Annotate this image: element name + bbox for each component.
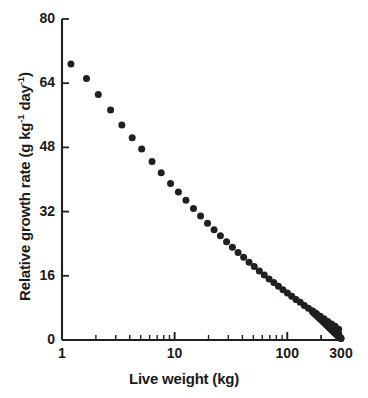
data-point — [95, 91, 102, 98]
data-point — [118, 121, 125, 128]
data-point — [167, 180, 174, 187]
data-point — [158, 169, 165, 176]
data-point — [211, 226, 218, 233]
data-point — [337, 335, 344, 342]
data-point — [204, 220, 211, 227]
chart-plot-area — [0, 0, 368, 398]
data-point — [138, 146, 145, 153]
axis-lines — [62, 19, 341, 340]
x-tick-label: 300 — [313, 345, 368, 361]
data-point — [223, 238, 230, 245]
data-point — [217, 232, 224, 239]
data-point — [197, 213, 204, 220]
x-axis-title: Live weight (kg) — [0, 370, 368, 387]
data-point — [235, 249, 242, 256]
data-point — [83, 75, 90, 82]
y-axis-title-mid: day — [16, 85, 33, 114]
data-point — [182, 197, 189, 204]
y-axis-title-exponent-1: -1 — [15, 114, 26, 122]
data-point — [129, 134, 136, 141]
data-point — [229, 244, 236, 251]
y-axis-title-lead: Relative growth rate (g kg — [16, 123, 33, 301]
y-axis-title-exponent-2: -1 — [15, 77, 26, 85]
x-tick-label: 1 — [34, 345, 90, 361]
data-point — [175, 188, 182, 195]
chart-figure: 01632486480 110100300 Relative growth ra… — [0, 0, 368, 398]
y-axis-title: Relative growth rate (g kg-1 day-1) — [16, 27, 33, 347]
data-point — [240, 254, 247, 261]
y-axis-title-tail: ) — [16, 72, 33, 77]
y-tick-label: 80 — [13, 10, 55, 26]
data-point — [149, 158, 156, 165]
data-point — [190, 205, 197, 212]
tick-marks — [62, 19, 341, 340]
x-tick-label: 100 — [259, 345, 315, 361]
x-tick-label: 10 — [147, 345, 203, 361]
data-point — [67, 60, 74, 67]
data-point — [107, 107, 114, 114]
data-points — [67, 60, 344, 341]
